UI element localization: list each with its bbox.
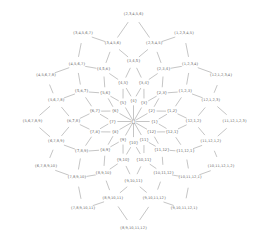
lattice-edge bbox=[198, 107, 205, 115]
lattice-node-r2_6: {6,7} bbox=[89, 109, 101, 113]
lattice-node-r4_1: {1,2,3,4} bbox=[181, 63, 199, 67]
lattice-node-r3_9: {9,10,11} bbox=[124, 180, 144, 184]
lattice-edge bbox=[109, 73, 118, 79]
lattice-edge bbox=[55, 68, 70, 73]
lattice-node-r5_9: {9,10,11,12,1} bbox=[170, 207, 198, 211]
lattice-node-r2_10: {10,11} bbox=[136, 158, 152, 162]
lattice-node-r3_7: {7,8,9} bbox=[74, 150, 89, 154]
lattice-node-r5_6: {6,7,8,9,10} bbox=[34, 165, 58, 169]
lattice-edge bbox=[199, 171, 210, 175]
lattice-edge bbox=[64, 145, 75, 149]
lattice-edge bbox=[137, 68, 142, 78]
lattice-edge bbox=[218, 128, 227, 136]
lattice-node-r4_5: {5,6,7,8} bbox=[47, 99, 65, 103]
lattice-node-r1_7: {7} bbox=[108, 120, 116, 124]
lattice-node-r1_8: {8} bbox=[111, 130, 119, 134]
lattice-edge bbox=[135, 113, 148, 120]
lattice-edge bbox=[139, 49, 148, 57]
lattice-edge bbox=[214, 151, 217, 157]
lattice-node-r1_1: {1} bbox=[150, 120, 158, 124]
lattice-edge bbox=[110, 142, 118, 147]
lattice-edge bbox=[79, 187, 81, 199]
lattice-node-r3_5: {5,6,7} bbox=[74, 90, 89, 94]
lattice-node-r4_12: {12,1,2,3} bbox=[201, 99, 221, 103]
lattice-node-r2_2: {2,3} bbox=[156, 91, 168, 95]
lattice-edge bbox=[100, 114, 108, 119]
lattice-edge bbox=[39, 128, 50, 137]
lattice-edge bbox=[86, 97, 92, 106]
lattice-node-r5_5: {5,6,7,8,9} bbox=[22, 120, 43, 124]
lattice-edge bbox=[126, 68, 131, 78]
lattice-node-r1_12: {12} bbox=[146, 130, 156, 134]
lattice-edge bbox=[217, 107, 226, 115]
lattice-edge bbox=[178, 125, 187, 129]
lattice-node-r2_5: {5,6} bbox=[99, 91, 111, 95]
lattice-edge bbox=[134, 123, 141, 135]
lattice-node-r1_10: {10} bbox=[128, 141, 138, 145]
lattice-edge bbox=[89, 92, 100, 93]
lattice-edge bbox=[187, 73, 189, 85]
lattice-edge bbox=[162, 37, 175, 42]
lattice-edge bbox=[64, 94, 75, 98]
lattice-edge bbox=[186, 43, 189, 57]
lattice-node-r2_9: {9,10} bbox=[116, 158, 130, 162]
lattice-edge bbox=[78, 73, 80, 85]
lattice-node-r5_11: {11,12,1,2,3} bbox=[222, 120, 248, 124]
lattice-edge bbox=[100, 124, 108, 129]
lattice-edge bbox=[149, 142, 156, 146]
lattice-edge bbox=[80, 125, 90, 130]
lattice-edge bbox=[148, 96, 156, 101]
lattice-edge bbox=[117, 22, 128, 37]
lattice-edge bbox=[39, 106, 50, 115]
lattice-edge bbox=[78, 43, 81, 57]
lattice-edge bbox=[78, 158, 80, 169]
lattice-node-r5_3: {3,4,5,6,7} bbox=[72, 32, 93, 36]
lattice-node-r3_2: {2,3,4} bbox=[156, 68, 171, 72]
lattice-node-r3_11: {11,12,1} bbox=[176, 150, 196, 154]
lattice-edge bbox=[136, 88, 141, 96]
lattice-node-r4_7: {7,8,9,10} bbox=[67, 176, 87, 180]
lattice-edge bbox=[162, 157, 163, 165]
lattice-node-r4_6: {6,7,8,9} bbox=[47, 140, 65, 144]
lattice-edge bbox=[108, 98, 113, 106]
lattice-edge bbox=[120, 187, 127, 193]
lattice-edge bbox=[93, 202, 104, 206]
lattice-edge bbox=[177, 114, 186, 118]
lattice-node-r2_11: {11,12} bbox=[154, 148, 170, 152]
lattice-edge bbox=[159, 114, 167, 119]
lattice-node-r4_10: {10,11,12,1} bbox=[178, 176, 203, 180]
lattice-edge bbox=[139, 22, 150, 37]
lattice-edge bbox=[176, 137, 181, 145]
lattice-node-r5_7: {7,8,9,10,11} bbox=[70, 207, 96, 211]
lattice-node-r1_5: {5} bbox=[119, 101, 127, 105]
lattice-edge bbox=[92, 37, 105, 42]
lattice-edge bbox=[80, 114, 90, 119]
lattice-edge bbox=[110, 164, 118, 169]
lattice-node-r3_1: {1,2,3} bbox=[178, 90, 193, 94]
lattice-node-r3_3: {3,4,5} bbox=[126, 60, 141, 64]
lattice-node-r3_4: {4,5,6} bbox=[96, 68, 111, 72]
lattice-node-r4_2: {2,3,4,5} bbox=[145, 42, 163, 46]
lattice-node-r5_8: {8,9,10,11,12} bbox=[119, 227, 147, 231]
lattice-node-r5_1: {1,2,3,4,5} bbox=[173, 32, 194, 36]
lattice-node-r3_10: {10,11,12} bbox=[153, 172, 175, 176]
lattice-edge bbox=[50, 85, 54, 94]
lattice-edge bbox=[85, 66, 97, 68]
lattice-node-r5_4: {4,5,6,7,8} bbox=[35, 74, 56, 78]
lattice-edge bbox=[150, 164, 157, 169]
lattice-node-r2_12: {12,1} bbox=[165, 130, 179, 134]
lattice-edge bbox=[154, 98, 159, 106]
lattice-edge bbox=[126, 88, 131, 96]
lattice-edge bbox=[108, 136, 113, 144]
lattice-edge bbox=[140, 187, 147, 193]
lattice-node-r4_8: {8,9,10,11} bbox=[102, 197, 125, 201]
lattice-edge bbox=[61, 127, 69, 136]
lattice-edge bbox=[162, 77, 163, 88]
lattice-edge bbox=[106, 181, 109, 190]
lattice-node-r2_8: {8,9} bbox=[99, 148, 111, 152]
lattice-node-r3_12: {12,1,2} bbox=[185, 120, 202, 124]
lattice-edge bbox=[140, 207, 149, 220]
lattice-node-r4_3: {3,4,5,6} bbox=[104, 42, 122, 46]
lattice-edge bbox=[158, 182, 161, 190]
lattice-node-r4_4: {4,5,6,7} bbox=[68, 63, 86, 67]
